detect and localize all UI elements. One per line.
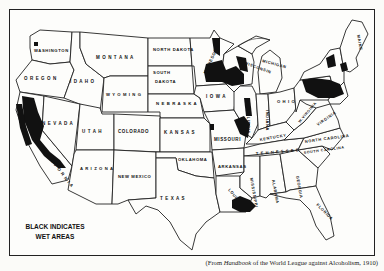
state-label-nevada: N E V A D A [42,121,74,126]
state-label-arizona: A R I Z O N A [80,166,114,171]
state-label-north-dakota: NORTH DAKOTA [153,47,194,52]
map-legend: BLACK INDICATES WET AREAS [20,222,90,242]
caption-source-title: Handbook [224,259,251,266]
state-label-washington: WASHINGTON [34,48,69,53]
state-label-montana: M O N T A N A [96,55,134,60]
state-kansas [160,118,210,152]
caption-prefix: (From [206,259,224,266]
state-arizona [68,150,114,204]
state-label-oregon: O R E G O N [24,76,57,81]
state-washington [30,30,72,64]
state-label-iowa: I O W A [206,94,226,99]
state-nebraska [148,94,204,118]
legend-line-2: WET AREAS [20,232,90,242]
state-label-south-dakota-2: DAKOTA [155,79,176,84]
state-label-arkansas: ARKANSAS [218,164,247,169]
wet-area-washington [34,42,38,46]
state-label-south-dakota-1: SOUTH [153,70,171,75]
state-label-illinois: ILLINOIS [246,112,251,134]
state-label-utah: U T A H [82,129,102,134]
state-label-texas: T E X A S [160,196,185,201]
wet-area-missouri [210,124,214,130]
state-label-wyoming: W Y O M I N G [106,92,142,97]
state-label-colorado: COLORADO [118,129,149,134]
state-label-idaho: I D A H O [70,79,95,84]
state-label-indiana: INDIANA [265,110,270,131]
state-label-new-mexico: NEW MEXICO [118,174,152,179]
state-label-ohio: O H I O [277,99,296,104]
state-arkansas [212,148,244,176]
state-label-oklahoma: OKLAHOMA [178,157,207,162]
state-label-kansas: K A N S A S [164,130,195,135]
states [16,20,368,250]
caption-suffix: of the World League against Alcoholism, … [251,259,378,266]
source-caption: (From Handbook of the World League again… [206,259,378,266]
state-north-dakota [148,38,192,66]
legend-line-1: BLACK INDICATES [20,222,90,232]
state-label-nebraska: N E B R A S K A [156,101,197,106]
state-label-missouri: MISSOURI [214,137,241,142]
